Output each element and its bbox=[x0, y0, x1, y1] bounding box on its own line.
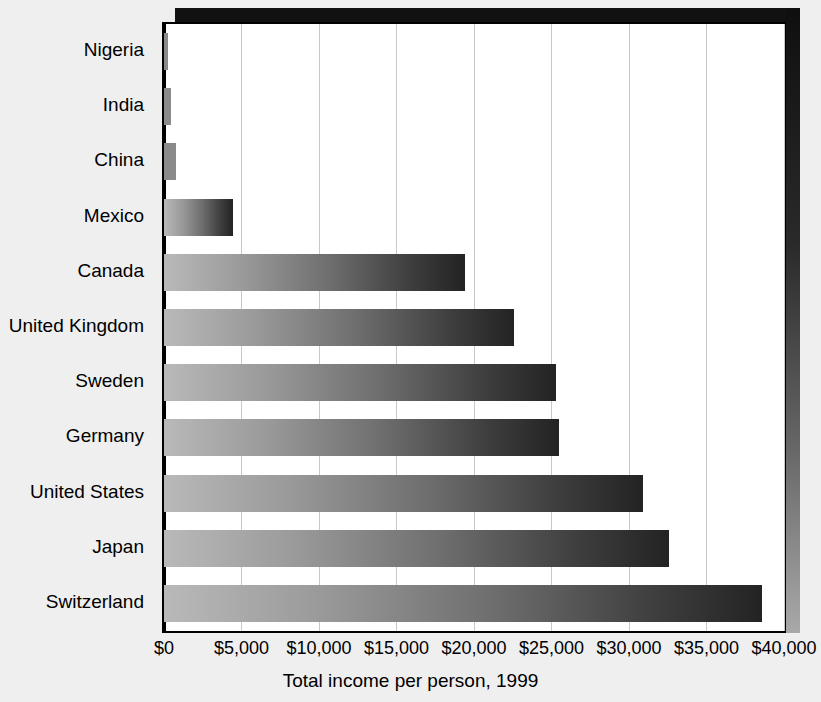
plot-area bbox=[162, 22, 786, 633]
bar bbox=[164, 530, 669, 567]
value-tick-label: $25,000 bbox=[519, 638, 584, 659]
bar bbox=[164, 254, 465, 291]
value-tick-label: $30,000 bbox=[596, 638, 661, 659]
category-label: Mexico bbox=[84, 197, 144, 234]
category-label: Germany bbox=[66, 417, 144, 454]
category-label: Canada bbox=[77, 252, 144, 289]
plot-shadow-right bbox=[786, 8, 800, 633]
value-tick-label: $0 bbox=[154, 638, 174, 659]
x-axis-title: Total income per person, 1999 bbox=[0, 670, 821, 692]
bar bbox=[164, 364, 556, 401]
bar bbox=[164, 199, 233, 236]
gridline-8 bbox=[784, 24, 785, 631]
value-tick-label: $20,000 bbox=[441, 638, 506, 659]
value-tick-label: $40,000 bbox=[751, 638, 816, 659]
category-label: Sweden bbox=[75, 362, 144, 399]
category-label: India bbox=[103, 86, 144, 123]
value-tick-label: $35,000 bbox=[674, 638, 739, 659]
bar bbox=[164, 143, 176, 180]
value-axis-ticks: $0$5,000$10,000$15,000$20,000$25,000$30,… bbox=[0, 638, 821, 664]
bar bbox=[164, 419, 559, 456]
category-label: Nigeria bbox=[84, 31, 144, 68]
bar bbox=[164, 33, 168, 70]
category-label: United States bbox=[30, 473, 144, 510]
category-axis: NigeriaIndiaChinaMexicoCanadaUnited King… bbox=[0, 22, 152, 632]
gridline-7 bbox=[706, 24, 707, 631]
value-tick-label: $15,000 bbox=[364, 638, 429, 659]
bar bbox=[164, 475, 643, 512]
plot-shadow-top bbox=[175, 8, 790, 22]
bar bbox=[164, 309, 514, 346]
category-label: United Kingdom bbox=[9, 307, 144, 344]
category-label: Japan bbox=[92, 528, 144, 565]
value-tick-label: $10,000 bbox=[286, 638, 351, 659]
plot-inner bbox=[164, 24, 784, 631]
bar bbox=[164, 88, 171, 125]
bar-chart-figure: NigeriaIndiaChinaMexicoCanadaUnited King… bbox=[0, 0, 821, 702]
category-label: Switzerland bbox=[46, 583, 144, 620]
value-tick-label: $5,000 bbox=[214, 638, 269, 659]
bar bbox=[164, 585, 762, 622]
category-label: China bbox=[94, 141, 144, 178]
